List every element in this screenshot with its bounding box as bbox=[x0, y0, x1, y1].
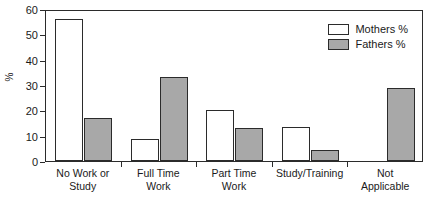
x-label-line2-1: Work bbox=[137, 180, 180, 193]
y-axis-tick-labels: 0102030405060 bbox=[16, 10, 38, 162]
x-label-line1-3: Study/Training bbox=[276, 167, 343, 179]
y-tick-label-20: 20 bbox=[26, 106, 38, 117]
legend-label-fathers: Fathers % bbox=[355, 39, 405, 50]
bar-mothers-2 bbox=[206, 110, 234, 161]
chart-legend: Mothers % Fathers % bbox=[328, 24, 408, 50]
x-label-line2-0: Study bbox=[56, 180, 109, 193]
x-label-4: NotApplicable bbox=[361, 167, 409, 193]
legend-swatch-mothers bbox=[328, 24, 349, 35]
x-label-line2-2: Work bbox=[212, 180, 257, 193]
bar-mothers-0 bbox=[55, 19, 83, 161]
x-label-line1-1: Full Time bbox=[137, 167, 180, 179]
bar-chart: % 0102030405060 Mothers % Fathers % No W… bbox=[0, 0, 430, 199]
x-label-line2-4: Applicable bbox=[361, 180, 409, 193]
legend-item-mothers: Mothers % bbox=[328, 24, 408, 35]
plot-frame: Mothers % Fathers % bbox=[45, 10, 423, 162]
x-label-line1-4: Not bbox=[377, 167, 393, 179]
legend-label-mothers: Mothers % bbox=[355, 24, 408, 35]
bar-fathers-2 bbox=[235, 128, 263, 161]
x-axis-category-labels: No Work orStudyFull TimeWorkPart TimeWor… bbox=[45, 167, 423, 199]
y-tick-label-50: 50 bbox=[26, 30, 38, 41]
bar-group-2 bbox=[197, 11, 273, 161]
y-tick-label-0: 0 bbox=[32, 157, 38, 168]
bar-mothers-3 bbox=[282, 127, 310, 161]
legend-item-fathers: Fathers % bbox=[328, 39, 408, 50]
x-label-2: Part TimeWork bbox=[212, 167, 257, 193]
y-tick-label-60: 60 bbox=[26, 5, 38, 16]
x-label-1: Full TimeWork bbox=[137, 167, 180, 193]
bar-fathers-3 bbox=[311, 150, 339, 161]
x-label-line1-2: Part Time bbox=[212, 167, 257, 179]
legend-swatch-fathers bbox=[328, 39, 349, 50]
bar-group-0 bbox=[46, 11, 122, 161]
x-label-3: Study/Training bbox=[276, 167, 343, 180]
y-tick-label-30: 30 bbox=[26, 81, 38, 92]
y-tick-label-10: 10 bbox=[26, 131, 38, 142]
x-label-0: No Work orStudy bbox=[56, 167, 109, 193]
bar-mothers-1 bbox=[131, 139, 159, 161]
bar-fathers-1 bbox=[160, 77, 188, 161]
x-label-line1-0: No Work or bbox=[56, 167, 109, 179]
bar-fathers-0 bbox=[84, 118, 112, 161]
y-tick-label-40: 40 bbox=[26, 55, 38, 66]
bar-group-1 bbox=[122, 11, 198, 161]
bar-fathers-4 bbox=[387, 88, 415, 161]
y-axis-title: % bbox=[5, 69, 15, 85]
